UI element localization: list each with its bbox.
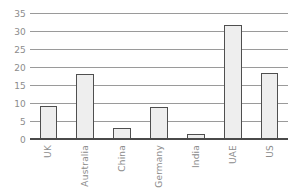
x-axis-tick-label: UK xyxy=(44,145,53,158)
x-axis-tick-label: India xyxy=(191,145,200,168)
bar xyxy=(40,106,58,140)
y-axis-tick-label: 15 xyxy=(2,82,26,91)
y-axis-tick-label: 35 xyxy=(2,10,26,19)
bar xyxy=(224,25,242,140)
y-axis-tick-label: 20 xyxy=(2,64,26,73)
x-axis-tick-label: Australia xyxy=(81,145,90,187)
y-axis-tick-label: 0 xyxy=(2,136,26,145)
y-axis-tick-label: 10 xyxy=(2,100,26,109)
x-axis-tick: India xyxy=(177,143,214,195)
y-axis: 05101520253035 xyxy=(0,0,26,195)
x-axis-tick-label: UAE xyxy=(228,145,237,164)
x-axis-tick: US xyxy=(251,143,288,195)
plot-area xyxy=(30,14,288,140)
bar-chart: 05101520253035 UKAustraliaChinaGermanyIn… xyxy=(0,0,299,195)
x-axis-tick-label: US xyxy=(265,145,274,158)
x-axis-line xyxy=(30,138,288,140)
y-axis-tick-label: 30 xyxy=(2,28,26,37)
x-axis-tick: Australia xyxy=(67,143,104,195)
x-axis-tick: UK xyxy=(30,143,67,195)
x-axis-tick: China xyxy=(104,143,141,195)
bar xyxy=(150,107,168,140)
bars-group xyxy=(30,14,288,140)
x-axis: UKAustraliaChinaGermanyIndiaUAEUS xyxy=(30,143,288,195)
bar xyxy=(261,73,279,140)
x-axis-tick: UAE xyxy=(214,143,251,195)
x-axis-tick-label: Germany xyxy=(154,145,163,188)
bar xyxy=(76,74,94,140)
y-axis-tick-label: 25 xyxy=(2,46,26,55)
x-axis-tick: Germany xyxy=(141,143,178,195)
y-axis-tick-label: 5 xyxy=(2,118,26,127)
x-axis-tick-label: China xyxy=(118,145,127,172)
